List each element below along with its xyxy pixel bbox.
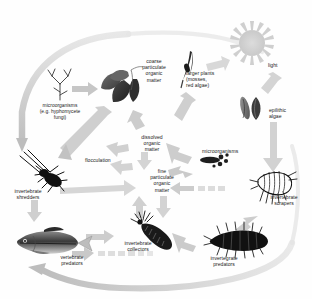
amphipod-icon (250, 171, 297, 204)
arrow-invert-predators-to-vertebrate-predators (72, 247, 153, 261)
arrow-light-to-plants (206, 56, 230, 71)
arrow-coarse-pom-to-shredders (58, 106, 112, 160)
fish-icon (17, 227, 92, 254)
leaves-icon (101, 67, 143, 102)
arrow-dissolved-om-to-fine-pom (137, 152, 152, 170)
blackfly-larva-icon (131, 211, 172, 250)
centipede-larva-icon (204, 222, 268, 258)
arrow-algae-to-scrapers (263, 122, 283, 172)
arrow-fungi-to-coarse-pom (72, 82, 98, 96)
arrow-light-to-algae (261, 72, 282, 94)
stream-food-web-diagram: light larger plants (mosses, red algae) … (0, 0, 312, 299)
arrow-dissolved-om-to-microorganisms (166, 143, 192, 164)
arrow-fine-pom-to-collectors (156, 196, 171, 218)
arrow-flocculation (106, 142, 129, 157)
arrow-flocculation-down (110, 160, 133, 175)
arrow-plants-to-dissolved-om (174, 92, 196, 121)
fungal-hypha-icon (48, 69, 71, 100)
algae-icon (238, 96, 260, 120)
arrow-coarse-pom-to-dissolved-om (127, 110, 145, 130)
arrow-microorganisms-to-fine-pom (168, 166, 193, 178)
arrow-scrapers-to-fine-pom (170, 182, 225, 195)
arrow-collectors-to-invert-predators (172, 233, 196, 253)
arrow-shredders-to-fine-pom (60, 180, 136, 196)
outer-recycle-arc-right (292, 146, 298, 243)
bacteria-icon (200, 153, 229, 167)
diagram-canvas (0, 0, 312, 299)
moss-plant-icon (181, 51, 193, 88)
arrow-shredders-to-vertebrate-predators (27, 200, 42, 222)
outer-recycle-arc-left (16, 34, 128, 152)
